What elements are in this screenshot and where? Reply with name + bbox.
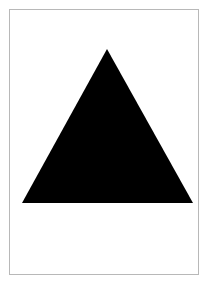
caption [0, 278, 208, 286]
triangle-icon [22, 49, 193, 203]
triangle-shape [0, 0, 208, 286]
